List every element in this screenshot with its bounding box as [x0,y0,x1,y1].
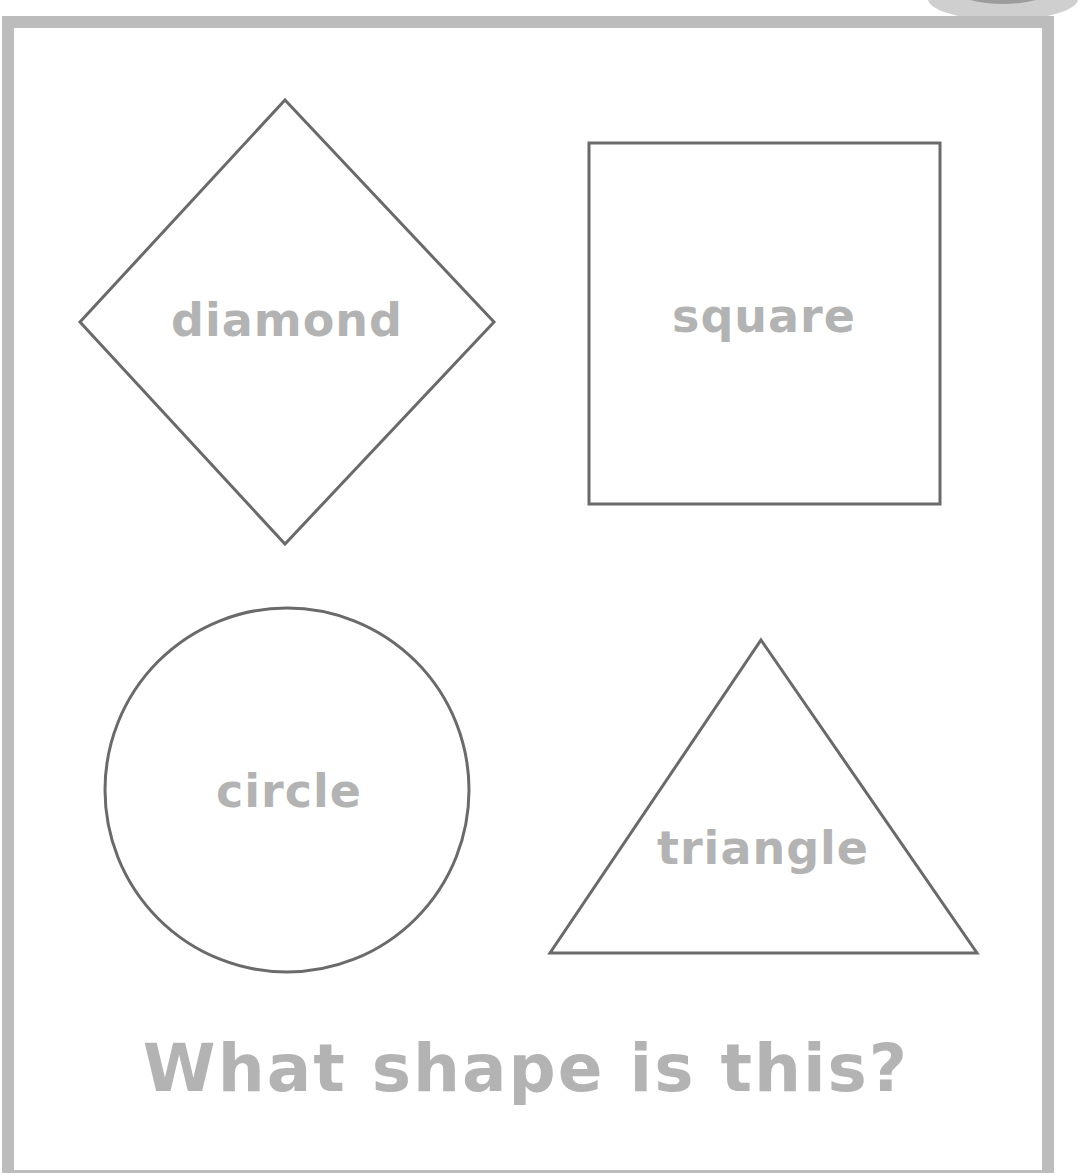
question-prompt: What shape is this? [143,1030,909,1107]
diamond-label: diamond [171,293,403,347]
circle-label: circle [216,764,362,818]
triangle-shape [550,640,977,953]
square-label: square [672,289,856,343]
triangle-label: triangle [657,821,869,875]
